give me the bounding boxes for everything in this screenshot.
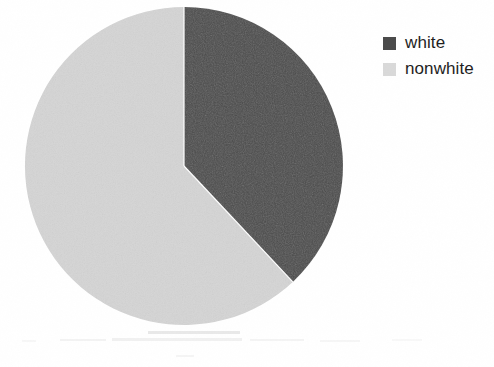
legend-swatch-white-icon <box>383 37 396 50</box>
pie-chart-figure: white nonwhite <box>0 0 494 367</box>
legend: white nonwhite <box>383 30 491 82</box>
scan-smudge <box>176 355 194 357</box>
legend-label-nonwhite: nonwhite <box>405 60 474 78</box>
legend-item-white[interactable]: white <box>383 30 491 56</box>
scan-smudge <box>22 340 36 342</box>
legend-swatch-nonwhite-icon <box>383 63 396 76</box>
scan-smudge <box>392 339 422 341</box>
pie-plot-area <box>0 0 370 340</box>
legend-label-white: white <box>405 34 445 52</box>
legend-item-nonwhite[interactable]: nonwhite <box>383 56 491 82</box>
pie-svg <box>0 0 370 340</box>
scan-smudge <box>320 340 360 342</box>
